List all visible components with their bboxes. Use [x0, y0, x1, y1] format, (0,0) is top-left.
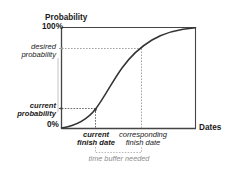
desired-probability-label-line2: probability [1, 51, 56, 59]
current-probability-arrowhead [58, 107, 62, 110]
y-axis-tick-0: 0% [47, 121, 59, 130]
x-axis-title: Dates [199, 124, 221, 133]
chart-canvas [0, 0, 229, 174]
current-probability-label: current probability [1, 102, 56, 118]
time-buffer-label: time buffer needed [79, 155, 159, 163]
y-axis-tick-100: 100% [42, 23, 63, 32]
corresponding-finish-date-label: corresponding finish date [113, 131, 173, 147]
desired-probability-label: desired probability [1, 43, 56, 59]
corresponding-finish-date-label-line2: finish date [113, 139, 173, 147]
time-buffer-bracket [96, 147, 142, 153]
probability-s-curve [62, 28, 196, 128]
probability-curve-figure: Probability 100% 0% Dates desired probab… [0, 0, 229, 174]
current-probability-label-line2: probability [1, 110, 56, 118]
